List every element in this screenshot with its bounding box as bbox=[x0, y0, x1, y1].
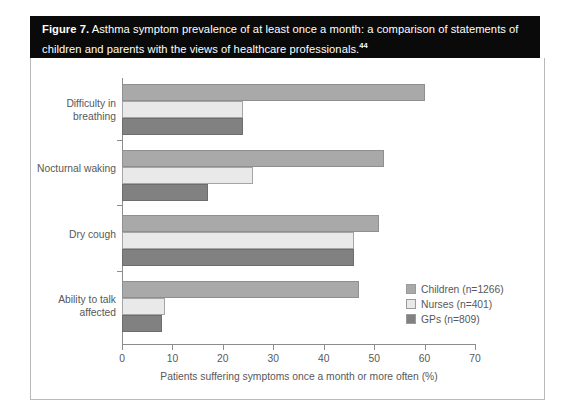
bar bbox=[122, 315, 162, 332]
legend-item: GPs (n=809) bbox=[406, 312, 504, 326]
y-axis-tick bbox=[117, 271, 122, 272]
x-axis-title: Patients suffering symptoms once a month… bbox=[122, 371, 476, 382]
bar bbox=[122, 249, 354, 266]
bar bbox=[122, 298, 165, 315]
legend-item: Children (n=1266) bbox=[406, 282, 504, 296]
legend-label: GPs (n=809) bbox=[421, 314, 480, 325]
legend-swatch-children bbox=[406, 284, 416, 294]
x-axis-tick bbox=[324, 345, 325, 350]
figure-reference-superscript: 44 bbox=[359, 41, 367, 50]
x-axis-tick bbox=[425, 345, 426, 350]
x-axis-tick bbox=[223, 345, 224, 350]
x-axis-tick bbox=[273, 345, 274, 350]
x-axis-tick-label: 20 bbox=[203, 353, 243, 364]
x-axis-tick-label: 70 bbox=[455, 353, 495, 364]
x-axis-tick bbox=[122, 345, 123, 350]
legend-swatch-nurses bbox=[406, 299, 416, 309]
bar bbox=[122, 215, 379, 232]
legend-label: Children (n=1266) bbox=[421, 284, 504, 295]
legend-item: Nurses (n=401) bbox=[406, 297, 504, 311]
legend-label: Nurses (n=401) bbox=[421, 299, 492, 310]
x-axis-tick bbox=[172, 345, 173, 350]
chart-legend: Children (n=1266)Nurses (n=401)GPs (n=80… bbox=[406, 282, 504, 327]
x-axis-tick-label: 10 bbox=[152, 353, 192, 364]
bar bbox=[122, 150, 384, 167]
x-axis-tick bbox=[374, 345, 375, 350]
x-axis-tick bbox=[475, 345, 476, 350]
x-axis-tick-label: 50 bbox=[354, 353, 394, 364]
y-axis-category-label: Difficulty in breathing bbox=[24, 97, 116, 123]
bar bbox=[122, 118, 243, 135]
bar bbox=[122, 84, 425, 101]
bar bbox=[122, 184, 208, 201]
x-axis-tick-label: 0 bbox=[102, 353, 142, 364]
y-axis-category-label: Nocturnal waking bbox=[24, 162, 116, 175]
y-axis-category-label: Ability to talk affected bbox=[24, 293, 116, 319]
y-axis-tick bbox=[117, 140, 122, 141]
bar bbox=[122, 167, 253, 184]
bar bbox=[122, 281, 359, 298]
y-axis-category-label: Dry cough bbox=[24, 228, 116, 241]
x-axis-line bbox=[122, 344, 476, 345]
bar bbox=[122, 232, 354, 249]
bar bbox=[122, 101, 243, 118]
figure-page: Figure 7. Asthma symptom prevalence of a… bbox=[0, 0, 567, 418]
x-axis-tick-label: 30 bbox=[253, 353, 293, 364]
x-axis-tick-label: 40 bbox=[304, 353, 344, 364]
legend-swatch-gps bbox=[406, 314, 416, 324]
x-axis-tick-label: 60 bbox=[405, 353, 445, 364]
y-axis-tick bbox=[117, 205, 122, 206]
